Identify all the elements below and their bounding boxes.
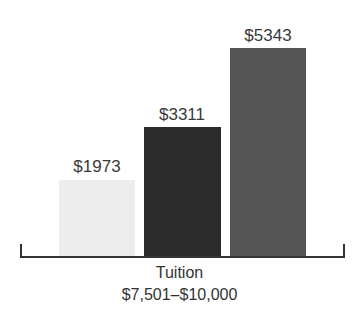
bracket-right-end bbox=[343, 244, 345, 257]
value-label-3311: $3311 bbox=[132, 105, 232, 125]
x-axis-bracket bbox=[20, 256, 345, 258]
value-label-5343: $5343 bbox=[218, 26, 318, 46]
category-label-line1: Tuition bbox=[0, 264, 359, 282]
value-label-1973: $1973 bbox=[47, 157, 147, 177]
category-label-line2: $7,501–$10,000 bbox=[0, 286, 359, 304]
bracket-left-end bbox=[20, 244, 22, 257]
bar-1973 bbox=[59, 180, 135, 257]
bar-3311 bbox=[144, 127, 221, 257]
bar-5343 bbox=[230, 48, 306, 257]
